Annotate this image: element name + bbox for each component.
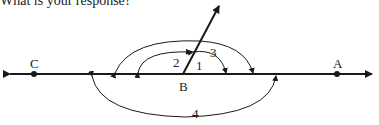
angle-arc-2 (138, 52, 191, 73)
point-label-a: A (333, 56, 343, 71)
angle-label-2: 2 (173, 55, 180, 70)
angle-label-3: 3 (210, 45, 217, 60)
point-label-b: B (179, 79, 188, 94)
angle-label-1: 1 (196, 58, 203, 73)
geometry-diagram: C B A 1 2 3 4 (0, 0, 379, 125)
point-a (334, 71, 340, 77)
angle-label-4: 4 (192, 106, 199, 121)
point-c (31, 71, 37, 77)
point-label-c: C (30, 56, 39, 71)
angle-arc-3 (115, 41, 253, 73)
